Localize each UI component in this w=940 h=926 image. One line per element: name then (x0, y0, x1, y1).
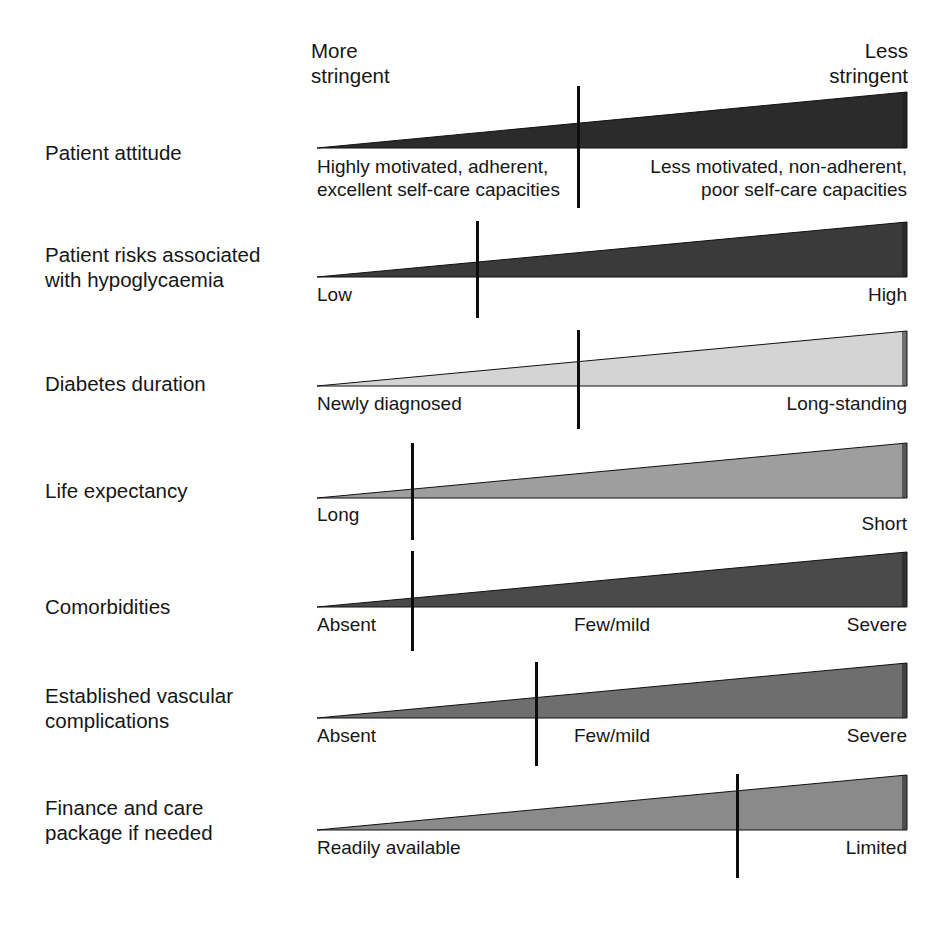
axis-label-more-stringent: More stringent (311, 38, 390, 88)
wedge-end-cap (902, 331, 907, 386)
wedge-end-cap (902, 222, 907, 277)
wedge-shape (317, 331, 907, 386)
glycaemic-target-figure: More stringent Less stringent Patient at… (0, 0, 940, 926)
factor-label-diabetes-duration: Diabetes duration (45, 371, 307, 396)
wedge-end-cap (902, 663, 907, 718)
wedge-end-cap (902, 92, 907, 148)
wedge-end-cap (902, 775, 907, 830)
factor-label-comorbidities: Comorbidities (45, 594, 307, 619)
scale-label: Severe (297, 724, 907, 747)
scale-label: Short (297, 512, 907, 535)
wedge-life-expectancy (317, 443, 907, 498)
scale-label: Severe (297, 613, 907, 636)
factor-label-patient-attitude: Patient attitude (45, 140, 307, 165)
wedge-shape (317, 222, 907, 277)
wedge-finance-care-package (317, 775, 907, 830)
marker-comorbidities[interactable] (411, 551, 414, 651)
wedge-patient-attitude (317, 92, 907, 148)
scale-label: Long-standing (297, 392, 907, 415)
scale-label: High (297, 283, 907, 306)
wedge-shape (317, 92, 907, 148)
wedge-vascular-complications (317, 663, 907, 718)
wedge-shape (317, 663, 907, 718)
wedge-comorbidities (317, 552, 907, 607)
wedge-shape (317, 775, 907, 830)
marker-vascular-complications[interactable] (535, 662, 538, 766)
factor-label-finance-care-package: Finance and care package if needed (45, 795, 307, 845)
wedge-shape (317, 552, 907, 607)
scale-label: Less motivated, non-adherent, poor self-… (297, 155, 907, 201)
wedge-end-cap (902, 552, 907, 607)
axis-label-less-stringent: Less stringent (829, 38, 908, 88)
wedge-diabetes-duration (317, 331, 907, 386)
factor-label-hypoglycaemia-risk: Patient risks associated with hypoglycae… (45, 242, 307, 292)
wedge-end-cap (902, 443, 907, 498)
wedge-hypoglycaemia-risk (317, 222, 907, 277)
wedge-shape (317, 443, 907, 498)
factor-label-vascular-complications: Established vascular complications (45, 683, 307, 733)
marker-finance-care-package[interactable] (736, 774, 739, 878)
factor-label-life-expectancy: Life expectancy (45, 478, 307, 503)
scale-label: Limited (297, 836, 907, 859)
